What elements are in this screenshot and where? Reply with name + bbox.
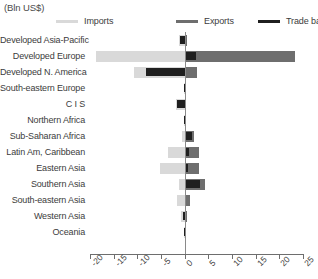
zero-axis-line (185, 32, 186, 254)
chart-row: C I S (0, 96, 318, 112)
bar-exports (185, 51, 295, 62)
x-axis-tick-label: 25 (302, 254, 316, 268)
category-label: Western Asia (0, 208, 85, 224)
chart-row: Eastern Asia (0, 160, 318, 176)
category-label: C I S (0, 96, 85, 112)
chart-row: Sub-Saharan Africa (0, 128, 318, 144)
chart-row: Northern Africa (0, 112, 318, 128)
chart-root: (Bln US$) ImportsExportsTrade balance De… (0, 0, 318, 279)
x-axis-tick-label: 0 (184, 258, 194, 268)
category-label: Latin Am, Caribbean (0, 144, 85, 160)
x-axis-tick-label: 15 (255, 254, 269, 268)
legend-label: Exports (204, 16, 234, 26)
category-label: Oceania (0, 224, 85, 240)
bar-trade-balance (185, 52, 196, 60)
category-label: South-eastern Asia (0, 192, 85, 208)
legend-item-imports[interactable]: Imports (56, 14, 113, 28)
chart-row: Latin Am, Caribbean (0, 144, 318, 160)
chart-row: Developed Asia-Pacific (0, 32, 318, 48)
bar-imports (177, 195, 185, 206)
legend-label: Trade balance (286, 16, 318, 26)
bar-imports (168, 147, 185, 158)
legend-label: Imports (84, 16, 113, 26)
units-caption: (Bln US$) (4, 2, 44, 13)
plot-area: Developed Asia-PacificDeveloped EuropeDe… (0, 32, 318, 248)
x-axis-tick-label: -5 (160, 256, 172, 268)
bar-trade-balance (177, 100, 185, 108)
x-axis-tick-label: 10 (231, 254, 245, 268)
category-label: Developed Asia-Pacific (0, 32, 85, 48)
category-label: South-eastern Europe (0, 80, 85, 96)
chart-row: Western Asia (0, 208, 318, 224)
bar-exports (185, 67, 197, 78)
chart-row: Southern Asia (0, 176, 318, 192)
chart-row: Developed Europe (0, 48, 318, 64)
bar-imports (96, 51, 185, 62)
category-label: Sub-Saharan Africa (0, 128, 85, 144)
chart-row: South-eastern Europe (0, 80, 318, 96)
category-label: Southern Asia (0, 176, 85, 192)
chart-row: South-eastern Asia (0, 192, 318, 208)
category-label: Eastern Asia (0, 160, 85, 176)
category-label: Northern Africa (0, 112, 85, 128)
x-axis-tick-label: 5 (207, 258, 217, 268)
bar-trade-balance (185, 132, 192, 140)
legend-item-exports[interactable]: Exports (176, 14, 234, 28)
bar-trade-balance (146, 68, 185, 76)
line-swatch-icon (56, 20, 78, 23)
chart-legend: ImportsExportsTrade balance (56, 14, 314, 28)
x-axis-tick-label: 20 (278, 254, 292, 268)
legend-item-trade-balance[interactable]: Trade balance (258, 14, 318, 28)
category-label: Developed N. America (0, 64, 85, 80)
category-label: Developed Europe (0, 48, 85, 64)
bar-imports (160, 163, 185, 174)
line-swatch-icon (176, 20, 198, 23)
bar-trade-balance (185, 180, 200, 188)
line-swatch-icon (258, 20, 280, 23)
chart-row: Oceania (0, 224, 318, 240)
chart-row: Developed N. America (0, 64, 318, 80)
